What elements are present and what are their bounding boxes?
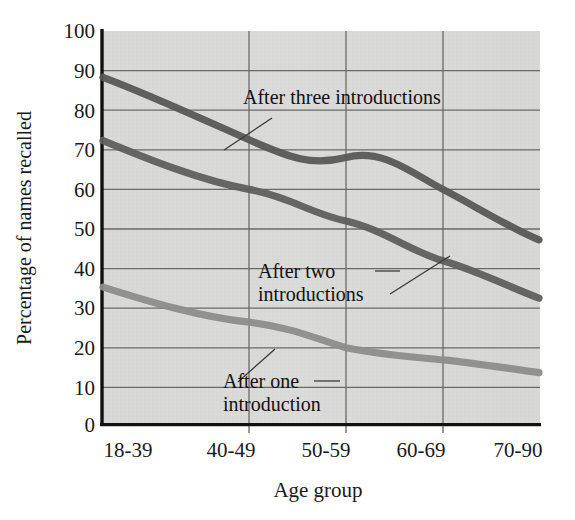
y-tick-label: 30 (74, 296, 95, 320)
x-tick-label: 60-69 (397, 438, 446, 462)
y-tick-label: 50 (74, 217, 95, 241)
annotation-after-one-line1: After one (223, 370, 299, 392)
x-tick-label: 18-39 (104, 438, 153, 462)
x-axis-tick-labels: 18-39 40-49 50-59 60-69 70-90 (104, 438, 543, 462)
annotation-after-three-introductions: After three introductions (243, 86, 441, 108)
y-axis-title: Percentage of names recalled (13, 111, 36, 345)
x-tick-label: 70-90 (494, 438, 543, 462)
y-tick-label: 20 (74, 336, 95, 360)
x-axis-ticks (249, 426, 443, 433)
y-axis-tick-labels: 100 90 80 70 60 50 40 30 20 10 0 (64, 19, 96, 437)
y-tick-label: 100 (64, 19, 96, 43)
y-tick-label: 90 (74, 59, 95, 83)
x-tick-label: 40-49 (207, 438, 256, 462)
annotation-after-one-line2: introduction (223, 393, 321, 415)
y-tick-label: 0 (85, 413, 96, 437)
y-tick-label: 60 (74, 178, 95, 202)
chart-figure: 100 90 80 70 60 50 40 30 20 10 0 18-39 4… (0, 0, 575, 520)
y-tick-label: 80 (74, 99, 95, 123)
x-axis-title: Age group (273, 478, 362, 502)
annotation-after-two-line1: After two (258, 260, 335, 282)
y-tick-label: 40 (74, 257, 95, 281)
y-tick-label: 70 (74, 138, 95, 162)
y-tick-label: 10 (74, 376, 95, 400)
x-tick-label: 50-59 (302, 438, 351, 462)
recall-by-age-line-chart: 100 90 80 70 60 50 40 30 20 10 0 18-39 4… (0, 0, 575, 520)
annotation-after-two-line2: introductions (258, 283, 364, 305)
